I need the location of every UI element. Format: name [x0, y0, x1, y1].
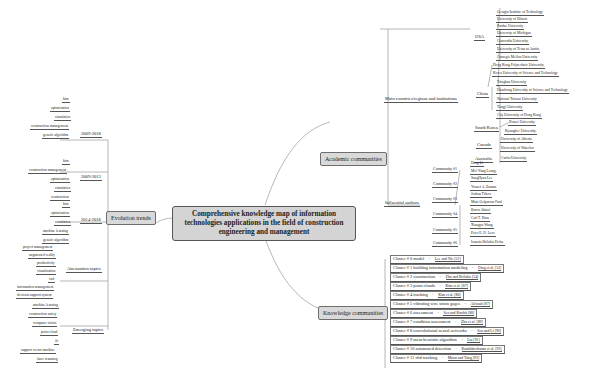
topic-leaf[interactable]: point cloud [40, 331, 58, 336]
institution-leaf[interactable]: Hong Kong Polytechnic University [492, 64, 545, 69]
topic-leaf[interactable]: cad [48, 278, 55, 283]
separator: = [428, 256, 430, 261]
cluster-item[interactable]: Cluster # 6 assessment=Seo and Knobit [8… [390, 309, 477, 318]
author-leaf[interactable]: Yousef A. Zaman [470, 186, 497, 191]
institution-leaf[interactable]: Yonsei University [508, 121, 536, 126]
topic-leaf[interactable]: simulation [54, 187, 71, 192]
influential-authors-node[interactable]: Influential authors [384, 201, 420, 207]
community-node[interactable]: Community #4 [432, 212, 458, 218]
evolution-trends-node[interactable]: Evolution trends [106, 211, 156, 225]
institution-leaf[interactable]: University of Waterloo [500, 147, 535, 152]
cluster-item[interactable]: Cluster # 9 meta-heuristic algorithm=Liu… [390, 336, 483, 345]
topic-leaf[interactable]: construction management [30, 125, 69, 130]
period-2009-2018[interactable]: 2009-2018 [80, 132, 102, 138]
topic-leaf[interactable]: decision support system [16, 294, 53, 299]
institution-leaf[interactable]: City University of Hong Kong [496, 114, 542, 119]
cluster-label: Cluster # 5 vibrating wire strain gages [393, 301, 460, 306]
author-leaf[interactable]: Ioannis Brilakis Defne [470, 241, 505, 246]
country-south-korea[interactable]: South Korea [474, 126, 499, 132]
topic-leaf[interactable]: visualization [36, 270, 56, 275]
author-leaf[interactable]: Heng Li [470, 162, 484, 167]
topic-leaf[interactable]: machine learning [42, 230, 69, 235]
topic-leaf[interactable]: optimization [50, 212, 70, 217]
institution-leaf[interactable]: Georgia Institute of Technology [496, 11, 544, 16]
cluster-item[interactable]: Cluster # 3 point clouds=Kim et al. [87] [390, 282, 471, 291]
institution-leaf[interactable]: Korea University of Science and Technolo… [492, 72, 559, 77]
author-leaf[interactable]: Xiangyu Wang [470, 224, 494, 229]
cluster-item[interactable]: Cluster # 11 rfid tracking=Moon and Yang… [390, 354, 482, 363]
country-usa[interactable]: USA [474, 35, 485, 41]
cluster-item[interactable]: Cluster # 1 building information modelin… [390, 264, 504, 273]
author-leaf[interactable]: Mei-Yung Leung [470, 170, 497, 175]
cluster-item[interactable]: Cluster # 10 automated detection=Kandabr… [390, 345, 505, 354]
topic-leaf[interactable]: construction safety [28, 313, 57, 318]
institution-leaf[interactable]: University of Michigan [496, 32, 532, 37]
cluster-item[interactable]: Cluster # 4 tracking=Kim et al. [86] [390, 291, 464, 300]
topic-leaf[interactable]: iit [54, 340, 59, 345]
topic-leaf[interactable]: optimization [50, 178, 70, 183]
community-node[interactable]: Community #1 [432, 167, 458, 173]
separator: = [461, 337, 463, 342]
author-leaf[interactable]: Peter E. D. Love [470, 232, 496, 237]
central-topic[interactable]: Comprehensive knowledge map of informati… [172, 206, 356, 241]
institution-leaf[interactable]: University of Illinois [496, 18, 528, 23]
topic-leaf[interactable]: simulation [54, 116, 71, 121]
cluster-item[interactable]: Cluster # 7 condition assessment=Zhu et … [390, 318, 486, 327]
period-2009-2013[interactable]: 2009-2013 [80, 175, 102, 181]
academic-communities-node[interactable]: Academic communities [320, 152, 387, 166]
cluster-reference: Zhu et al. [89] [461, 320, 483, 325]
institution-leaf[interactable]: Tsinghua University [496, 81, 527, 86]
author-leaf[interactable]: Carl T. Haas [470, 217, 490, 222]
topic-leaf[interactable]: bim [62, 160, 70, 165]
topic-leaf[interactable]: simulation [54, 221, 71, 226]
institution-leaf[interactable]: Huazhong University of Science and Techn… [496, 89, 569, 94]
author-leaf[interactable]: Mani Golparvar-Fard [470, 201, 503, 206]
country-canada[interactable]: Canada [476, 143, 492, 149]
attenuation-topics-node[interactable]: Attenuation topics [66, 267, 102, 273]
topic-leaf[interactable]: computer vision [32, 322, 57, 327]
separator: = [432, 292, 434, 297]
period-2014-2018[interactable]: 2014-2018 [80, 218, 102, 224]
topic-leaf[interactable]: augmented reality [28, 254, 56, 259]
institution-leaf[interactable]: Kyunghee University [504, 130, 537, 135]
topic-leaf[interactable]: productivity [36, 262, 56, 267]
countries-institutions-node[interactable]: Main countries/regions and institutions [384, 97, 458, 103]
author-leaf[interactable]: SangHyun Lee [470, 177, 493, 182]
period-label: 2009-2013 [81, 174, 101, 179]
institution-leaf[interactable]: Purdue University [496, 25, 524, 30]
community-node[interactable]: Community #5 [432, 228, 458, 234]
author-leaf[interactable]: Joshua Tilters [470, 193, 492, 198]
topic-leaf[interactable]: support vector machine [20, 349, 56, 354]
country-china[interactable]: China [476, 92, 489, 98]
topic-leaf[interactable]: machine learning [32, 304, 59, 309]
topic-leaf[interactable]: information management [16, 286, 54, 291]
institution-leaf[interactable]: University of Texas at Austin [496, 48, 540, 53]
topic-leaf[interactable]: optimization [50, 107, 70, 112]
topic-leaf[interactable]: construction management [28, 169, 67, 174]
cluster-item[interactable]: Cluster # 8 convolutional neural network… [390, 327, 504, 336]
institution-leaf[interactable]: Curtin University [500, 157, 527, 162]
emerging-topics-node[interactable]: Emerging topics [72, 328, 104, 334]
institution-leaf[interactable]: Concordia University [496, 40, 529, 45]
community-node[interactable]: Community #3 [432, 197, 458, 203]
topic-leaf[interactable]: bim [62, 98, 70, 103]
topic-leaf[interactable]: laser scanning [36, 358, 58, 363]
cluster-reference: Ding et al. [53] [478, 266, 501, 271]
knowledge-communities-node[interactable]: Knowledge communities [318, 306, 388, 320]
topic-leaf[interactable]: project management [22, 246, 53, 251]
separator: = [464, 301, 466, 306]
cluster-item[interactable]: Cluster # 0 model=Lee and Nie [52] [390, 255, 464, 264]
institution-leaf[interactable]: University of Alberta [500, 138, 533, 143]
community-node[interactable]: Community #2 [432, 182, 458, 188]
institution-leaf[interactable]: Tongji University [496, 106, 523, 111]
community-node[interactable]: Community #6 [432, 241, 458, 247]
topic-leaf[interactable]: bim [62, 203, 70, 208]
cluster-item[interactable]: Cluster # 2 construction=Zhu and Brilaki… [390, 273, 481, 282]
topic-leaf[interactable]: construction [50, 196, 70, 201]
topic-leaf[interactable]: genetic algorithm [42, 134, 69, 139]
author-leaf[interactable]: Burcu Akinci [470, 209, 491, 214]
cluster-item[interactable]: Cluster # 5 vibrating wire strain gages=… [390, 300, 493, 309]
institution-leaf[interactable]: National Taiwan University [496, 98, 538, 103]
institution-leaf[interactable]: Carnegie Mellon University [496, 56, 538, 61]
topic-leaf[interactable]: genetic algorithm [42, 239, 69, 244]
